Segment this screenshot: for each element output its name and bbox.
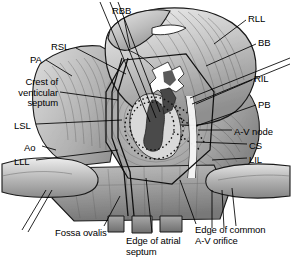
right-vessel [206,164,290,198]
label-pa: PA [30,55,42,66]
label-cs: CS [249,141,262,152]
label-edge-of-atrial-septum: Edge of atrial septum [126,236,181,257]
label-rbb: RBB [112,6,131,17]
label-edge-of-common-av-orifice: Edge of common A-V orifice [195,225,265,246]
label-crest-of-ventricular-septum: Crest of venticular septum [0,77,58,109]
label-lsl: LSL [14,121,31,132]
label-bb: BB [258,38,270,49]
label-av-node: A-V node [234,127,273,138]
label-pb: PB [258,100,270,111]
label-fossa-ovalis: Fossa ovalis [55,228,107,239]
anatomical-figure: RBB RLL BB RSL PA RIL Crest of venticula… [0,0,292,259]
label-ril: RIL [254,74,268,85]
label-ao: Ao [24,143,35,154]
label-lll: LLL [14,157,30,168]
label-lil: LIL [249,155,262,166]
label-rll: RLL [248,14,265,25]
label-rsl: RSL [51,42,69,53]
